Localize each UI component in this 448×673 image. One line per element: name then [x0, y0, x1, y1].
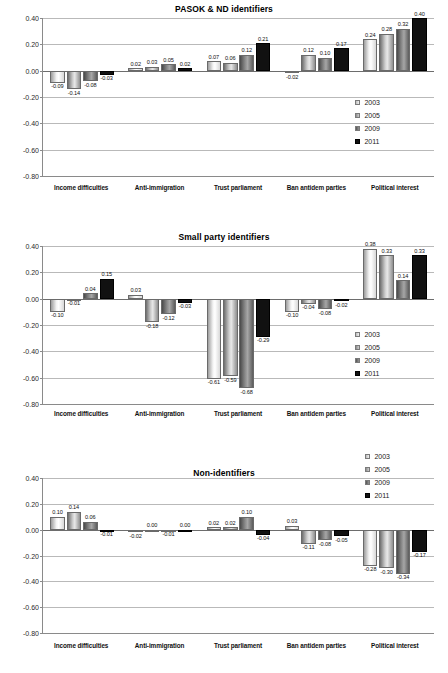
bar[interactable] — [412, 255, 426, 298]
bar-group: 0.020.030.050.02 — [121, 18, 199, 176]
bar[interactable] — [239, 55, 253, 71]
bar-slot: -0.68 — [239, 246, 255, 404]
legend-item-2011[interactable]: 2011 — [355, 367, 380, 380]
bar[interactable] — [301, 530, 315, 544]
bar-slot: -0.59 — [222, 246, 238, 404]
y-axis-tick-label: -0.60 — [23, 604, 39, 611]
y-axis-tick-label: 0.40 — [25, 475, 39, 482]
legend-item-2011[interactable]: 2011 — [355, 135, 380, 148]
bar[interactable] — [223, 63, 237, 71]
x-axis-category-labels: Income difficultiesAnti-immigrationTrust… — [42, 184, 434, 193]
bar-slots: 0.020.020.10-0.04 — [206, 478, 272, 633]
bar[interactable] — [161, 64, 175, 71]
bar[interactable] — [318, 299, 332, 310]
x-axis-category-label: Ban antidem parties — [277, 642, 355, 651]
bar[interactable] — [67, 512, 81, 530]
bar[interactable] — [412, 530, 426, 552]
bar[interactable] — [285, 299, 299, 312]
bar[interactable] — [363, 39, 377, 71]
legend-item-2009[interactable]: 2009 — [355, 122, 380, 135]
legend-swatch-icon — [355, 332, 360, 337]
bar[interactable] — [207, 61, 221, 70]
y-axis-tick-label: 0.40 — [25, 15, 39, 22]
bar[interactable] — [412, 18, 426, 71]
bar[interactable] — [178, 530, 192, 532]
y-axis-tick-label: -0.40 — [23, 120, 39, 127]
bar[interactable] — [301, 55, 315, 71]
legend-item-2003[interactable]: 2003 — [365, 450, 390, 463]
bar[interactable] — [50, 71, 64, 83]
bar[interactable] — [318, 530, 332, 540]
bar-value-label: -0.29 — [257, 337, 269, 343]
bar[interactable] — [239, 517, 253, 530]
y-axis-tick-label: 0.20 — [25, 41, 39, 48]
bar-value-label: 0.12 — [241, 47, 252, 53]
legend-item-2005[interactable]: 2005 — [355, 109, 380, 122]
bar-slot: 0.02 — [222, 478, 238, 633]
bar-value-label: -0.28 — [364, 566, 376, 572]
bar-group: 0.380.330.140.33 — [356, 246, 434, 404]
bar[interactable] — [379, 255, 393, 298]
bar[interactable] — [100, 279, 114, 299]
bar[interactable] — [100, 71, 114, 75]
bar-slot: 0.28 — [378, 18, 394, 176]
bar[interactable] — [145, 299, 159, 323]
bar-slots: 0.100.140.06-0.01 — [49, 478, 115, 633]
bar[interactable] — [207, 527, 221, 530]
bar[interactable] — [83, 71, 97, 82]
bar[interactable] — [363, 530, 377, 566]
bar-value-label: -0.10 — [51, 312, 63, 318]
bar-slots: -0.10-0.010.040.15 — [49, 246, 115, 404]
bar[interactable] — [396, 530, 410, 574]
x-axis-category-label: Trust parliament — [199, 642, 277, 651]
bar[interactable] — [334, 530, 348, 536]
y-axis-tick-label: 0.20 — [25, 500, 39, 507]
bar[interactable] — [145, 530, 159, 532]
bar[interactable] — [301, 299, 315, 304]
legend-item-2005[interactable]: 2005 — [355, 341, 380, 354]
bar[interactable] — [239, 299, 253, 389]
bar[interactable] — [396, 29, 410, 71]
gridline — [43, 176, 434, 177]
legend-item-2011[interactable]: 2011 — [365, 489, 390, 502]
bar[interactable] — [379, 34, 393, 71]
bar[interactable] — [363, 249, 377, 299]
bar-value-label: 0.03 — [130, 287, 141, 293]
legend-item-2005[interactable]: 2005 — [365, 463, 390, 476]
bar[interactable] — [128, 295, 142, 299]
bar-group: -0.020.120.100.17 — [278, 18, 356, 176]
bar[interactable] — [67, 71, 81, 89]
bar[interactable] — [256, 299, 270, 337]
bar[interactable] — [223, 527, 237, 530]
bar[interactable] — [207, 299, 221, 379]
bar[interactable] — [50, 517, 64, 530]
bar[interactable] — [334, 48, 348, 70]
legend-item-2003[interactable]: 2003 — [355, 328, 380, 341]
bar[interactable] — [178, 68, 192, 71]
bar[interactable] — [83, 293, 97, 298]
bar-value-label: 0.00 — [180, 522, 191, 528]
y-axis-tick-label: 0.00 — [25, 526, 39, 533]
bar[interactable] — [145, 67, 159, 71]
bar[interactable] — [318, 58, 332, 71]
bar-slot: 0.02 — [177, 18, 193, 176]
legend-item-2003[interactable]: 2003 — [355, 96, 380, 109]
bar[interactable] — [256, 43, 270, 71]
bar-value-label: 0.03 — [147, 59, 158, 65]
bar[interactable] — [83, 522, 97, 530]
bar[interactable] — [379, 530, 393, 569]
bar-slot: -0.10 — [284, 246, 300, 404]
bar[interactable] — [50, 299, 64, 312]
bar[interactable] — [285, 526, 299, 530]
bar[interactable] — [128, 68, 142, 71]
bar[interactable] — [161, 299, 175, 315]
bar[interactable] — [223, 299, 237, 377]
bar[interactable] — [396, 280, 410, 298]
bar-slot: -0.09 — [49, 18, 65, 176]
legend-item-2009[interactable]: 2009 — [355, 354, 380, 367]
plot-area: 0.400.200.00-0.20-0.40-0.60-0.80-0.10-0.… — [42, 246, 434, 404]
bar[interactable] — [178, 299, 192, 303]
bar[interactable] — [256, 530, 270, 535]
bar-slot: 0.05 — [160, 18, 176, 176]
legend-item-2009[interactable]: 2009 — [365, 476, 390, 489]
